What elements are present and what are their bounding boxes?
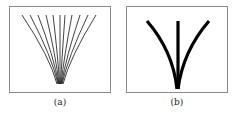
thin-curves-diagram	[10, 7, 110, 92]
caption-a: (a)	[9, 97, 111, 107]
panel-b-thick-curves	[126, 6, 228, 93]
panel-a-thin-curves	[9, 6, 111, 93]
caption-b: (b)	[126, 97, 228, 107]
thick-curves-diagram	[127, 7, 227, 92]
